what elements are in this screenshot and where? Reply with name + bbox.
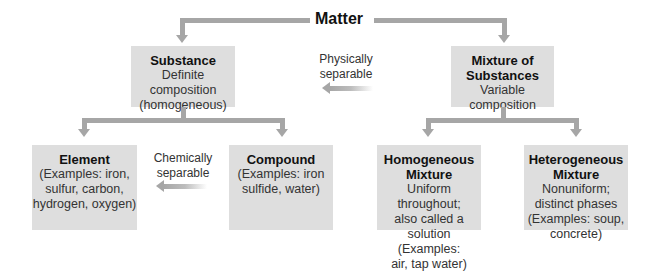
compound-description: (Examples: iron sulfide, water) <box>229 167 333 197</box>
element-title: Element <box>32 152 137 167</box>
connector-substance-bar <box>82 118 285 123</box>
substance-node: Substance Definite composition (homogene… <box>131 46 235 107</box>
mixture-title: Mixture of Substances <box>451 53 554 83</box>
arrow-down-icon <box>422 129 434 137</box>
connector-matter-left <box>180 18 310 23</box>
connector-mixture-drop <box>502 18 507 36</box>
chemically-separable-arrow <box>163 184 207 189</box>
connector-mixture-bar <box>426 118 579 123</box>
homogeneous-mixture-description: Uniform throughout; also called a soluti… <box>377 182 481 272</box>
arrow-down-icon <box>176 35 188 43</box>
homogeneous-mixture-node: Homogeneous Mixture Uniform throughout; … <box>377 145 481 230</box>
element-description: (Examples: iron, sulfur, carbon, hydroge… <box>32 167 137 212</box>
chemically-separable-label: Chemically separable <box>152 151 214 181</box>
arrow-down-icon <box>276 129 288 137</box>
connector-substance-drop <box>180 18 185 36</box>
arrow-down-icon <box>570 129 582 137</box>
heterogeneous-mixture-node: Heterogeneous Mixture Nonuniform; distin… <box>524 145 628 230</box>
heterogeneous-mixture-title: Heterogeneous Mixture <box>524 152 628 182</box>
connector-matter-right <box>374 18 507 23</box>
element-node: Element (Examples: iron, sulfur, carbon,… <box>32 145 137 230</box>
mixture-node: Mixture of Substances Variable compositi… <box>451 46 554 107</box>
matter-node: Matter <box>315 10 363 28</box>
substance-title: Substance <box>131 53 235 68</box>
arrow-down-icon <box>78 129 90 137</box>
physically-separable-label: Physically separable <box>316 52 376 82</box>
physically-separable-arrow <box>329 86 373 91</box>
heterogeneous-mixture-description: Nonuniform; distinct phases (Examples: s… <box>524 182 628 242</box>
compound-node: Compound (Examples: iron sulfide, water) <box>229 145 333 230</box>
homogeneous-mixture-title: Homogeneous Mixture <box>377 152 481 182</box>
compound-title: Compound <box>229 152 333 167</box>
arrow-down-icon <box>498 35 510 43</box>
